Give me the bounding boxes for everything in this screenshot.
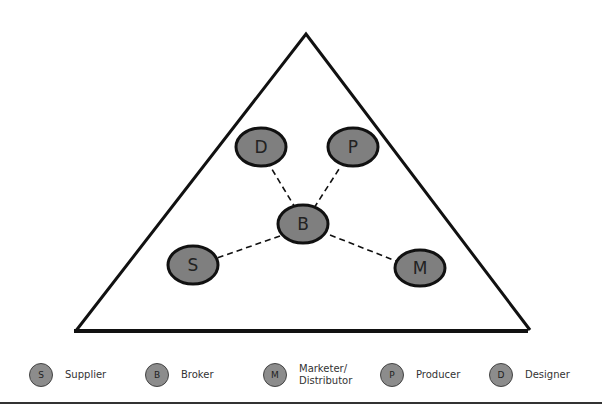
edge-broker-designer: [270, 166, 296, 209]
node-label: B: [297, 214, 309, 234]
node-producer: P: [328, 128, 378, 166]
legend-item-marketer-distributor: M Marketer/ Distributor: [263, 358, 352, 392]
legend-swatch: P: [380, 363, 404, 387]
network-diagram: D P B S M: [0, 0, 602, 416]
node-label: P: [348, 137, 358, 157]
legend-label: Supplier: [65, 369, 106, 381]
legend: S Supplier B Broker M Marketer/ Distribu…: [0, 358, 602, 392]
node-marketer-distributor: M: [395, 250, 445, 286]
bottom-divider: [0, 402, 602, 404]
legend-item-supplier: S Supplier: [29, 358, 106, 392]
legend-item-broker: B Broker: [145, 358, 214, 392]
node-label: D: [254, 137, 267, 157]
legend-label-line: Distributor: [299, 375, 352, 387]
edge-broker-producer: [314, 166, 341, 208]
node-label: M: [413, 258, 428, 278]
legend-label-line: Marketer/: [299, 363, 352, 375]
legend-swatch: S: [29, 363, 53, 387]
legend-label: Marketer/ Distributor: [299, 363, 352, 387]
triangle-frame: [75, 34, 530, 332]
legend-label: Producer: [416, 369, 460, 381]
node-supplier: S: [168, 246, 218, 284]
edge-broker-supplier: [217, 236, 280, 258]
legend-item-producer: P Producer: [380, 358, 460, 392]
edge-broker-marketer: [330, 235, 396, 261]
node-broker: B: [278, 205, 328, 243]
legend-item-designer: D Designer: [489, 358, 570, 392]
legend-label: Designer: [525, 369, 570, 381]
legend-swatch: B: [145, 363, 169, 387]
legend-label: Broker: [181, 369, 214, 381]
node-label: S: [188, 255, 199, 275]
legend-swatch: M: [263, 363, 287, 387]
node-designer: D: [236, 128, 286, 166]
legend-swatch: D: [489, 363, 513, 387]
